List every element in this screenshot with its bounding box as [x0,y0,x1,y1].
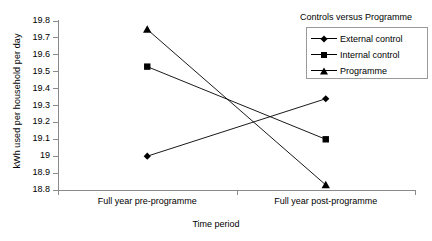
legend-key [311,48,337,62]
legend-label: Internal control [340,50,400,60]
legend-item: Programme [311,63,423,79]
series-external-control [144,95,330,160]
legend-key [311,64,337,78]
triangle-marker-icon [320,68,328,75]
legend-label: Programme [340,66,387,76]
data-point [143,25,151,33]
series-line [147,67,326,140]
data-point [144,63,150,69]
legend-item: Internal control [311,47,423,63]
series-internal-control [144,63,329,142]
x-axis-title: Time period [0,219,432,229]
legend-label: External control [340,34,403,44]
legend: External controlInternal controlProgramm… [306,27,428,79]
data-point [323,136,329,142]
legend-title: Controls versus Programme [300,12,412,22]
data-point [322,95,329,102]
legend-key [311,32,337,46]
chart-container: kWh used per household per day 19.819.71… [0,0,432,241]
data-point [144,153,151,160]
legend-item: External control [311,31,423,47]
diamond-marker-icon [320,35,327,42]
square-marker-icon [321,52,327,58]
